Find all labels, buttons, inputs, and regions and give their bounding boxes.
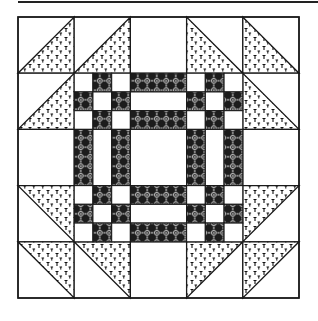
light-patch: [224, 111, 243, 130]
block-cell-half-square: [18, 186, 74, 242]
dark-patch: [187, 92, 206, 111]
light-patch: [224, 223, 243, 242]
dark-patch: [93, 223, 112, 242]
block-cell-half-square: [18, 242, 74, 298]
dark-patch: [224, 92, 243, 111]
dark-patch: [130, 73, 186, 92]
dark-patch: [112, 129, 131, 185]
light-patch: [130, 92, 186, 111]
dark-patch: [224, 204, 243, 223]
dark-patch: [130, 111, 186, 130]
block-cell-plain: [243, 129, 299, 185]
dark-patch: [93, 111, 112, 130]
dark-patch: [130, 223, 186, 242]
dark-patch: [74, 204, 93, 223]
dark-patch: [112, 204, 131, 223]
dark-patch: [224, 129, 243, 185]
dark-patch: [205, 223, 224, 242]
light-patch: [187, 73, 206, 92]
light-patch: [112, 73, 131, 92]
block-cell-half-square: [18, 17, 74, 73]
block-cell-half-square: [243, 17, 299, 73]
dark-patch: [74, 129, 93, 185]
light-patch: [187, 223, 206, 242]
block-cell-half-square: [187, 17, 243, 73]
block-cell-plain: [130, 17, 186, 73]
light-patch: [224, 186, 243, 205]
light-patch: [112, 186, 131, 205]
light-patch: [112, 111, 131, 130]
dark-patch: [205, 186, 224, 205]
block-cell-plain: [18, 129, 74, 185]
dark-patch: [74, 92, 93, 111]
light-patch: [93, 129, 112, 185]
quilt-block: [0, 0, 318, 321]
dark-patch: [93, 186, 112, 205]
light-patch: [205, 92, 224, 111]
block-cell-half-square: [187, 242, 243, 298]
light-patch: [74, 186, 93, 205]
light-patch: [112, 223, 131, 242]
dark-patch: [187, 129, 206, 185]
light-patch: [187, 186, 206, 205]
light-patch: [205, 204, 224, 223]
dark-patch: [112, 92, 131, 111]
light-patch: [130, 204, 186, 223]
block-cell-half-square: [243, 242, 299, 298]
block-cell-half-square: [243, 186, 299, 242]
light-patch: [205, 129, 224, 185]
block-cell-plain: [130, 242, 186, 298]
block-cell-half-square: [74, 242, 130, 298]
block-cell-half-square: [18, 73, 74, 129]
block-cell-half-square: [243, 73, 299, 129]
dark-patch: [205, 73, 224, 92]
light-patch: [74, 111, 93, 130]
dark-patch: [187, 204, 206, 223]
light-patch: [224, 73, 243, 92]
dark-patch: [130, 186, 186, 205]
light-patch: [74, 73, 93, 92]
quilt-diagram: [0, 0, 318, 321]
light-patch: [93, 204, 112, 223]
light-patch: [93, 92, 112, 111]
light-patch: [74, 223, 93, 242]
dark-patch: [205, 111, 224, 130]
block-cell-half-square: [74, 17, 130, 73]
light-patch: [130, 129, 186, 185]
dark-patch: [93, 73, 112, 92]
light-patch: [187, 111, 206, 130]
center-frame: [74, 73, 243, 242]
